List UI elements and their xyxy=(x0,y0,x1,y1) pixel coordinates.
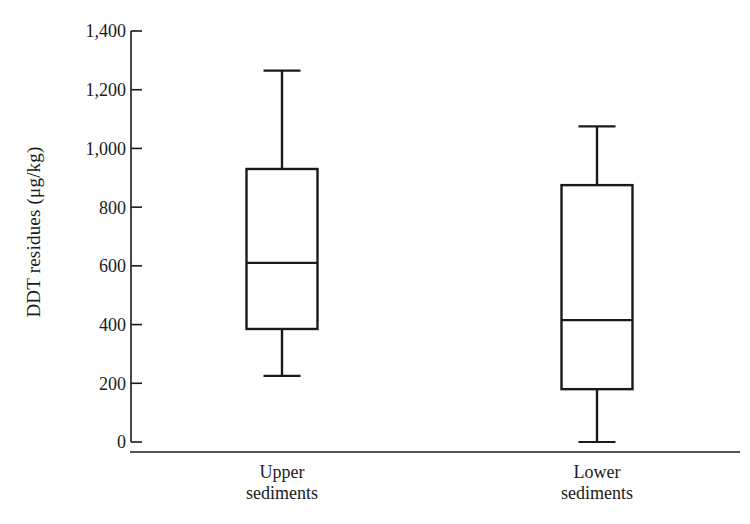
box-iqr xyxy=(562,185,633,389)
x-category-label-lower-sediments: Lower sediments xyxy=(502,462,692,504)
box-plot xyxy=(247,71,318,376)
box-plot xyxy=(562,126,633,442)
y-axis-ticks xyxy=(131,31,142,442)
box-iqr xyxy=(247,169,318,329)
plot-area xyxy=(0,0,750,524)
box-plot-series xyxy=(247,71,633,442)
chart-figure: DDT residues (μg/kg) 1,400 1,200 1,000 8… xyxy=(0,0,750,524)
axis-lines xyxy=(130,31,740,452)
x-category-label-upper-sediments: Upper sediments xyxy=(187,462,377,504)
